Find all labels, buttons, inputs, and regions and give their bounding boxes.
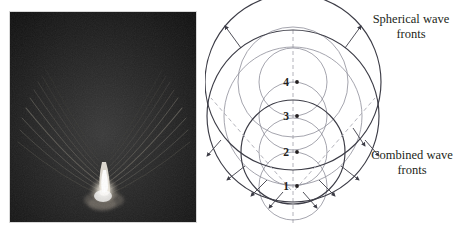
wavefront-diagram-panel: 1 2 3 4 Spherical wave fronts Combined w… — [205, 0, 471, 234]
shadowgraph-photo — [10, 12, 196, 222]
shadowgraph-photo-panel — [10, 12, 196, 222]
mach-line-left — [211, 98, 291, 190]
arrow-combined-right-icon — [353, 128, 365, 146]
source-point-dots — [295, 80, 299, 188]
figure-root: 1 2 3 4 Spherical wave fronts Combined w… — [0, 0, 471, 234]
source-point-label-2: 2 — [283, 146, 289, 158]
source-point-label-1: 1 — [283, 180, 289, 192]
film-grain — [10, 12, 196, 222]
source-point-label-3: 3 — [283, 110, 289, 122]
spherical-wave-fronts-label: Spherical wave fronts — [355, 12, 467, 41]
source-point-label-4: 4 — [283, 76, 289, 88]
arrow-left-icon — [207, 140, 221, 156]
source-point-dot-4 — [295, 80, 299, 84]
source-point-dot-3 — [295, 114, 299, 118]
arrow-lower-left-outer-icon — [227, 166, 245, 180]
arrow-bottom-right-icon — [303, 192, 317, 208]
combined-wave-fronts-label: Combined wave fronts — [355, 148, 469, 177]
source-point-dot-2 — [295, 150, 299, 154]
arrow-bottom-left-icon — [269, 192, 283, 208]
source-point-dot-1 — [295, 184, 299, 188]
arrow-up-left-icon — [225, 26, 241, 48]
